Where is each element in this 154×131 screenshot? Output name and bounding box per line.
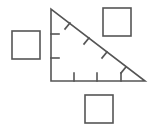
square-top-right: [103, 8, 131, 36]
square-left: [12, 31, 40, 59]
diagram-canvas: [0, 0, 154, 131]
horizontal-leg-ticks: [74, 73, 121, 81]
square-bottom: [85, 95, 113, 123]
vertical-leg-ticks: [51, 34, 59, 58]
hypotenuse-ticks: [65, 23, 126, 73]
